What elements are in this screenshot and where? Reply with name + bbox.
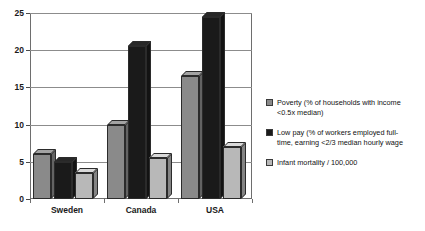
series-1-swatch [266, 99, 273, 106]
x-tick-label: Canada [104, 205, 178, 215]
bar [181, 76, 199, 199]
bar-side-face [93, 168, 98, 199]
bars-layer [30, 13, 252, 199]
y-tick-label: 20 [0, 46, 24, 55]
bar-side-face [167, 153, 172, 199]
bar-front-face [75, 173, 93, 199]
legend-label-line2: <0.5x median) [277, 108, 424, 118]
bar-front-face [128, 46, 146, 199]
legend-label-line1: Poverty (% of households with income [277, 98, 424, 108]
x-tick-mark [178, 199, 179, 203]
x-tick-mark [252, 199, 253, 203]
bar [202, 17, 220, 199]
legend-label-line1: Infant mortality / 100,000 [277, 158, 424, 168]
x-tick-label: USA [178, 205, 252, 215]
legend: Poverty (% of households with income <0.… [266, 98, 424, 179]
bar-side-face [241, 142, 246, 199]
bar [149, 158, 167, 199]
bar-front-face [223, 147, 241, 199]
bar [107, 125, 125, 199]
legend-label-line2: time, earning <2/3 median hourly wage [277, 138, 424, 148]
bar-front-face [202, 17, 220, 199]
x-tick-mark [30, 199, 31, 203]
legend-label-line1: Low pay (% of workers employed full- [277, 128, 424, 138]
bar [223, 147, 241, 199]
bar-front-face [149, 158, 167, 199]
legend-item-poverty: Poverty (% of households with income <0.… [266, 98, 424, 117]
bar-chart: 0510152025 SwedenCanadaUSA Poverty (% of… [0, 0, 425, 231]
series-3-swatch [266, 159, 273, 166]
y-tick-label: 10 [0, 121, 24, 130]
bar [33, 154, 51, 199]
bar-front-face [107, 125, 125, 199]
x-tick-label: Sweden [30, 205, 104, 215]
y-tick-label: 15 [0, 83, 24, 92]
bar [75, 173, 93, 199]
y-tick-label: 25 [0, 9, 24, 18]
bar-front-face [181, 76, 199, 199]
y-tick-label: 5 [0, 158, 24, 167]
x-tick-mark [104, 199, 105, 203]
legend-item-low-pay: Low pay (% of workers employed full- tim… [266, 128, 424, 147]
series-2-swatch [266, 129, 273, 136]
bar-front-face [54, 162, 72, 199]
legend-item-infant-mortality: Infant mortality / 100,000 [266, 158, 424, 168]
bar [128, 46, 146, 199]
bar-front-face [33, 154, 51, 199]
y-tick-label: 0 [0, 195, 24, 204]
bar [54, 162, 72, 199]
